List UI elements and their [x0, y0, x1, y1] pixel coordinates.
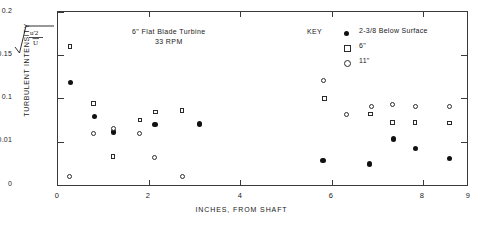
y-tick-label-0.15: 0.15	[0, 50, 12, 57]
data-point-open-circle	[91, 131, 96, 136]
x-tick-6	[332, 180, 333, 185]
data-point-open-square	[413, 120, 418, 125]
x-tick-label-8: 8	[420, 191, 424, 200]
data-point-filled-circle	[320, 158, 325, 163]
data-point-open-circle	[321, 78, 326, 83]
data-point-open-square	[68, 44, 73, 49]
y-tick-label-0.01: 0.01	[0, 136, 12, 143]
data-point-open-circle	[413, 104, 418, 109]
y-tick-right-0.1	[461, 98, 467, 99]
y-tick-label-0.1: 0.1	[2, 93, 12, 100]
x-tick-label-9: 9	[466, 191, 470, 200]
y-tick-label-0: 0	[8, 180, 12, 187]
legend-title: KEY	[307, 28, 322, 35]
data-point-open-circle	[137, 131, 142, 136]
data-point-open-square	[91, 101, 96, 106]
x-tick-top-8	[423, 12, 424, 17]
legend-label-0: 2-3/8 Below Surface	[359, 27, 428, 34]
x-tick-4	[240, 180, 241, 185]
data-point-filled-circle	[413, 146, 418, 151]
x-tick-top-4	[240, 12, 241, 17]
annotation-line-2: 33 RPM	[132, 37, 206, 47]
legend-marker-open-square-icon	[344, 45, 351, 53]
x-tick-top-2	[149, 12, 150, 17]
y-tick-0.15	[58, 55, 64, 56]
chart-annotation: 6" Flat Blade Turbine 33 RPM	[132, 27, 206, 47]
y-tick-label-0.2: 0.2	[2, 7, 12, 14]
data-point-open-square	[368, 112, 373, 117]
data-point-open-square	[447, 121, 452, 126]
data-point-open-circle	[111, 126, 116, 131]
plot-area: 6" Flat Blade Turbine 33 RPM KEY 2-3/8 B…	[57, 11, 468, 186]
data-point-open-square	[322, 96, 327, 101]
data-point-open-square	[111, 154, 116, 159]
data-point-open-circle	[67, 174, 72, 179]
figure-scatter-turbulent-intensity: u'2 U TURBULENT INTENSITY 0.2 0.15 0.1 0…	[0, 0, 483, 234]
data-point-filled-circle	[197, 121, 202, 126]
x-tick-8	[423, 180, 424, 185]
data-point-open-square	[153, 110, 158, 115]
data-point-filled-circle	[447, 156, 452, 161]
legend-marker-filled-circle-icon	[344, 30, 349, 37]
data-point-open-square	[180, 108, 185, 113]
data-point-open-circle	[390, 102, 395, 107]
x-tick-label-0: 0	[55, 191, 59, 200]
data-point-filled-circle	[68, 80, 73, 85]
legend-label-2: 11"	[359, 57, 370, 64]
y-tick-right-0.15	[461, 55, 467, 56]
y-axis-title: TURBULENT INTENSITY	[23, 23, 30, 117]
data-point-open-square	[138, 118, 143, 123]
legend-marker-open-circle-icon	[344, 60, 351, 68]
annotation-line-1: 6" Flat Blade Turbine	[132, 27, 206, 37]
x-tick-label-4: 4	[238, 191, 242, 200]
data-point-open-square	[390, 120, 395, 125]
data-point-open-circle	[344, 112, 349, 117]
x-tick-top-6	[332, 12, 333, 17]
y-tick-0.1	[58, 98, 64, 99]
data-point-filled-circle	[391, 136, 396, 141]
x-tick-label-2: 2	[146, 191, 150, 200]
x-tick-label-6: 6	[329, 191, 333, 200]
data-point-open-circle	[152, 155, 157, 160]
y-axis-title-container: TURBULENT INTENSITY	[18, 0, 34, 140]
y-tick-0.2	[58, 12, 64, 13]
x-tick-2	[149, 180, 150, 185]
y-tick-0.01	[58, 142, 64, 143]
data-point-filled-circle	[367, 161, 372, 166]
y-tick-right-0.01	[461, 142, 467, 143]
data-point-filled-circle	[152, 122, 157, 127]
x-axis-title: INCHES, FROM SHAFT	[0, 206, 483, 213]
data-point-open-circle	[447, 104, 452, 109]
legend-label-1: 6"	[359, 42, 366, 49]
data-point-open-circle	[180, 174, 185, 179]
data-point-filled-circle	[92, 114, 97, 119]
data-point-open-circle	[369, 104, 374, 109]
